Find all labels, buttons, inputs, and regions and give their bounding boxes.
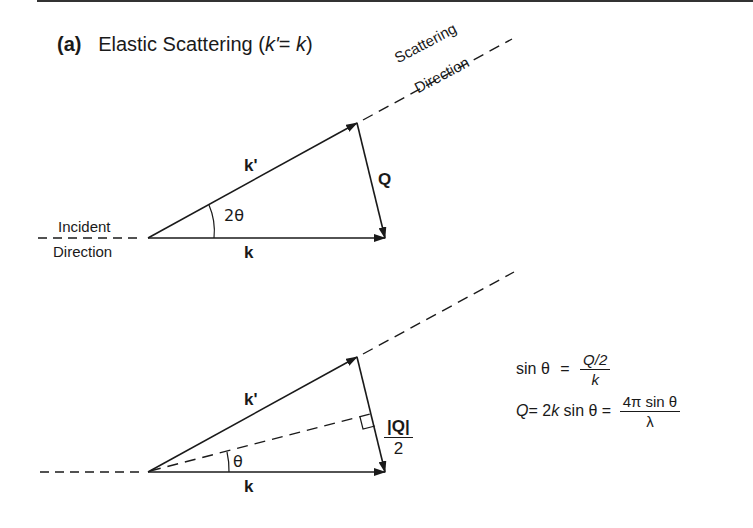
eq2-k: k [551,402,559,419]
half-Q-vector-arrow [357,357,385,472]
angle-theta-arc [227,452,229,472]
angle-2theta-arc [209,205,214,238]
eq2-mid: = 2 [528,402,551,419]
panel-title: (a) Elastic Scattering (k'= k) [57,34,313,54]
title-k: k [296,33,306,55]
k-prime-label: k' [244,157,258,174]
angle-theta-label: θ [233,454,243,470]
title-eq: = [279,33,296,55]
half-Q-denominator: 2 [384,438,413,457]
eq1-equals: = [560,360,569,377]
angle-2theta-label: 2θ [224,208,244,224]
panel-title-text: Elastic Scattering [98,33,253,55]
Q-label: Q [378,171,391,188]
k-prime-vector-arrow-bottom [148,357,357,472]
eq2-Q: Q [516,402,528,419]
half-Q-label: |Q| 2 [384,418,413,457]
eq2-sin: sin θ = [559,402,611,419]
k-label: k [244,244,253,261]
title-paren-close: ) [306,33,313,55]
panel-label: (a) [57,33,81,55]
incident-label-line2: Direction [53,244,112,259]
half-Q-numerator: |Q| [384,418,413,438]
scattering-direction-line-bottom [363,272,514,354]
incident-label-line1: Incident [58,219,111,234]
title-paren-open: ( [258,33,265,55]
k-label-bottom: k [244,478,253,495]
diagram-canvas [0,0,753,528]
eq2-numerator: 4π sin θ [620,394,681,412]
equation-Q: Q= 2k sin θ = 4π sin θ λ [516,394,680,429]
eq1-lhs: sin θ [516,360,550,377]
bottom-triangle [40,272,514,472]
title-kprime: k' [265,33,279,55]
eq2-denominator: λ [620,412,681,429]
equation-sin-theta: sin θ = Q/2 k [516,352,610,387]
k-prime-label-bottom: k' [244,391,258,408]
eq1-denominator: k [580,370,610,387]
k-prime-vector-arrow [148,123,357,238]
eq1-numerator: Q/2 [580,352,610,370]
bisector-dashed-line [150,414,370,471]
